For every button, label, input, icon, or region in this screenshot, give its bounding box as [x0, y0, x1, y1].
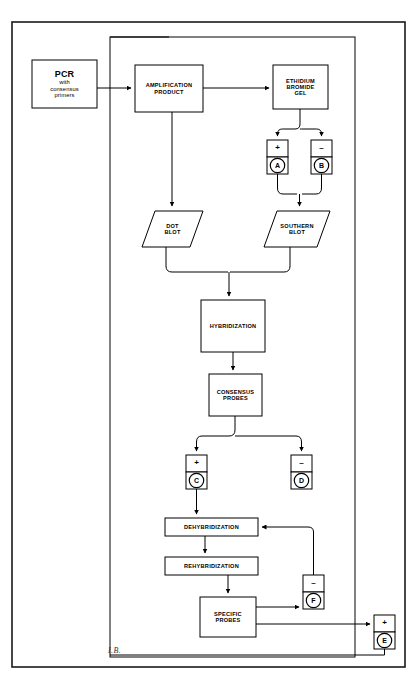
node-dot-blot [142, 211, 203, 247]
edge-a-to-junction [278, 174, 298, 194]
edge-consensus-split-d [235, 436, 302, 451]
node-consensus-probes [209, 374, 262, 416]
node-result-d-circle [294, 473, 308, 487]
node-ethidium-bromide-gel [273, 65, 328, 109]
node-amplification-product [135, 65, 203, 112]
node-rehybridization [165, 557, 258, 575]
node-result-d-sign [291, 455, 312, 472]
node-specific-probes [200, 597, 256, 637]
node-result-a-sign [267, 140, 288, 157]
edge-ethidium-split-b [300, 129, 322, 136]
edge-southern-blot-to-merge [230, 247, 290, 272]
edge-f-feedback-to-dehybridization [262, 527, 314, 575]
node-result-e-sign [374, 615, 395, 632]
node-result-c-circle [189, 473, 203, 487]
author-signature: I.B. [108, 646, 121, 655]
diagram-page: PCR with consensus primers AMPLIFICATION… [0, 0, 418, 689]
node-result-e-circle [377, 633, 391, 647]
edge-e-feedback-outer [110, 649, 385, 655]
edge-b-to-junction [302, 174, 322, 194]
node-dehybridization [165, 518, 258, 536]
node-result-f-sign [303, 575, 324, 592]
node-result-b-sign [311, 140, 332, 157]
edge-dot-blot-to-merge [166, 247, 228, 272]
edge-consensus-split-c [197, 416, 236, 451]
node-result-f-circle [306, 593, 320, 607]
node-hybridization [201, 300, 265, 352]
flowchart-canvas [0, 0, 418, 689]
node-result-a-circle [270, 158, 284, 172]
edge-ethidium-split [278, 109, 301, 136]
node-southern-blot [264, 211, 330, 247]
node-result-b-circle [314, 158, 328, 172]
node-pcr [32, 60, 97, 108]
node-result-c-sign [186, 455, 207, 472]
